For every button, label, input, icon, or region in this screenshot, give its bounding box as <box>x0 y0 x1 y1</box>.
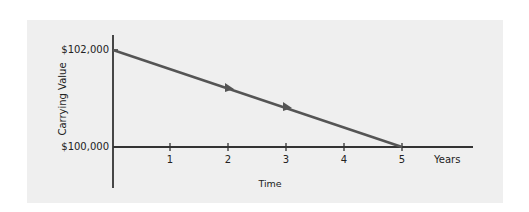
x-tick-label: 2 <box>225 154 231 165</box>
x-tick-label: 5 <box>399 154 405 165</box>
y-axis-title: Carrying Value <box>57 62 68 135</box>
chart: $102,000 $100,000 Carrying Value 1 2 3 4… <box>0 0 529 212</box>
carrying-value-line <box>113 50 402 147</box>
x-tick-label: 3 <box>283 154 289 165</box>
y-tick-label: $100,000 <box>61 141 109 152</box>
x-axis-title: Time <box>257 178 281 189</box>
x-tick-label: 1 <box>167 154 173 165</box>
x-tick-label: 4 <box>341 154 347 165</box>
y-tick-label: $102,000 <box>61 44 109 55</box>
x-unit-label: Years <box>433 154 460 165</box>
